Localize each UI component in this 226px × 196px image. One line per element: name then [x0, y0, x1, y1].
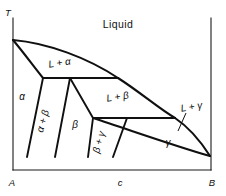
axis-label-composition-c: c — [118, 177, 123, 188]
solidus-alpha-branch — [13, 40, 43, 78]
region-label-liquid: Liquid — [103, 18, 133, 30]
solvus-gamma-branch — [93, 118, 210, 156]
phase-diagram-figure: Liquid L + α L + β L + γ α β γ α + β β +… — [0, 0, 226, 196]
region-label-liquid-beta: L + β — [105, 89, 129, 103]
region-label-alpha: α — [19, 91, 25, 102]
region-label-gamma: γ — [166, 137, 172, 148]
alpha-beta-right-divider — [55, 78, 70, 157]
axis-label-temperature: T — [5, 7, 12, 18]
region-label-liquid-gamma: L + γ — [180, 99, 204, 113]
beta-left-divider — [70, 78, 93, 118]
axis-label-component-a: A — [8, 177, 15, 188]
region-label-beta: β — [71, 119, 78, 130]
phase-diagram-canvas: Liquid L + α L + β L + γ α β γ α + β β +… — [0, 0, 226, 196]
axis-label-component-b: B — [209, 177, 216, 188]
beta-gamma-right-divider — [113, 118, 127, 157]
region-label-beta-gamma: β + γ — [90, 129, 107, 155]
region-label-liquid-alpha: L + α — [47, 55, 71, 69]
